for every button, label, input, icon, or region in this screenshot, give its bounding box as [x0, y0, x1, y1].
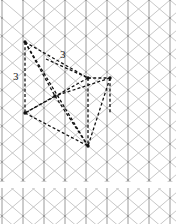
vertex-dot: [108, 76, 111, 79]
vertex-dots: [23, 40, 111, 147]
dimension-label-upper: 3: [60, 49, 66, 60]
vertex-dot: [86, 144, 89, 147]
edge-A-B: [25, 42, 88, 78]
dashed-figure-layer: [0, 0, 176, 224]
vertex-dot: [53, 94, 56, 97]
edge-D-E: [25, 113, 88, 146]
dashed-edges: [25, 42, 110, 146]
dimension-label-left: 3: [13, 71, 19, 82]
sheet-gap-band: [0, 182, 176, 188]
edge-F-E: [55, 96, 88, 146]
edge-A-E: [25, 42, 88, 146]
isometric-grid-sheet: 3 3: [0, 0, 176, 224]
vertex-dot: [86, 76, 89, 79]
edge-C-E: [88, 78, 110, 146]
edge-G-B: [46, 59, 88, 78]
vertex-dot: [23, 40, 26, 43]
vertex-dot: [23, 111, 26, 114]
